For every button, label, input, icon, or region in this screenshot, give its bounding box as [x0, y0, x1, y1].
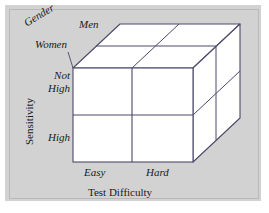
y-level-not-high: Not High [42, 69, 70, 94]
z-level-men: Men [79, 19, 99, 31]
y-level-not-high-line2: High [42, 82, 70, 95]
cube-diagram [0, 0, 269, 213]
y-level-not-high-line1: Not [42, 69, 70, 82]
y-level-high: High [42, 132, 70, 144]
women-leader-line [68, 52, 73, 68]
x-level-hard: Hard [146, 167, 169, 179]
axis-title-sensitivity: Sensitivity [24, 98, 36, 145]
figure-root: Gender Men Women Not High High Sensitivi… [0, 0, 269, 213]
z-level-women: Women [35, 39, 67, 51]
axis-title-test-difficulty: Test Difficulty [88, 187, 152, 199]
x-level-easy: Easy [84, 167, 105, 179]
